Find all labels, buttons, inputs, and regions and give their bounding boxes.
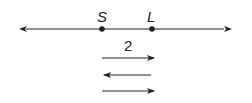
- label-l: L: [147, 8, 155, 25]
- segment-length-label: 2: [124, 37, 132, 54]
- main-line: [19, 26, 232, 32]
- number-line-diagram: S L 2: [0, 0, 252, 103]
- left-arrowhead-icon: [19, 26, 27, 32]
- point-l: [149, 26, 155, 32]
- right-arrowhead-icon: [224, 26, 232, 32]
- point-s: [99, 26, 105, 32]
- label-s: S: [97, 8, 107, 25]
